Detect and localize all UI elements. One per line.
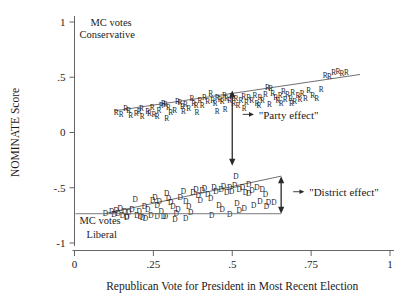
top-left-note-line-1: MC votes bbox=[91, 17, 132, 28]
y-tick-label: 0 bbox=[60, 126, 66, 138]
data-point-d: D bbox=[271, 198, 277, 207]
data-point-d: D bbox=[183, 214, 189, 223]
y-tick-label: .5 bbox=[57, 71, 66, 83]
y-axis-title: NOMINATE Score bbox=[9, 88, 21, 177]
axis-labels-group: NOMINATE ScoreRepublican Vote for Presid… bbox=[9, 17, 359, 293]
data-point-d: D bbox=[197, 196, 203, 205]
data-point-r: R bbox=[223, 105, 228, 114]
bottom-left-note-line-1: MC votes bbox=[80, 215, 121, 226]
data-point-d: D bbox=[156, 197, 162, 206]
bottom-left-note-line-2: Liberal bbox=[87, 229, 117, 240]
data-point-r: R bbox=[279, 99, 284, 108]
data-point-d: D bbox=[227, 210, 233, 219]
data-point-r: R bbox=[164, 114, 169, 123]
data-point-d: D bbox=[233, 172, 239, 181]
x-axis-title: Republican Vote for President in Most Re… bbox=[106, 280, 358, 293]
x-tick-label: 1 bbox=[387, 258, 393, 270]
nominate-score-scatter-figure: 1.50-.5-10.25.5.751 RRRRRRRRRRRRRRRRRRRR… bbox=[0, 0, 418, 305]
y-tick-label: -.5 bbox=[54, 182, 66, 194]
y-tick-label: -1 bbox=[56, 237, 65, 249]
data-point-d: D bbox=[209, 211, 215, 220]
data-point-r: R bbox=[137, 107, 142, 116]
data-point-r: R bbox=[319, 85, 324, 94]
data-point-r: R bbox=[181, 107, 186, 116]
data-point-d: D bbox=[132, 195, 138, 204]
plot-canvas: 1.50-.5-10.25.5.751 RRRRRRRRRRRRRRRRRRRR… bbox=[0, 0, 418, 305]
data-point-d: D bbox=[242, 204, 248, 213]
data-point-r: R bbox=[200, 101, 205, 110]
x-tick-label: 0 bbox=[72, 258, 78, 270]
data-point-r: R bbox=[344, 68, 349, 77]
data-point-r: R bbox=[155, 112, 160, 121]
annotation-label-1: "Party effect" bbox=[259, 109, 319, 121]
data-point-r: R bbox=[126, 106, 131, 115]
data-point-d: D bbox=[148, 211, 154, 220]
data-point-d: D bbox=[175, 205, 181, 214]
annotation-arrowhead-top-2 bbox=[278, 176, 284, 183]
data-point-r: R bbox=[289, 99, 294, 108]
x-tick-label: .75 bbox=[304, 258, 318, 270]
data-series-group: RRRRRRRRRRRRRRRRRRRRRRRRRRRRRRRRRRRRRRRR… bbox=[103, 67, 360, 224]
data-point-d: D bbox=[264, 202, 270, 211]
annotation-label-2: "District effect" bbox=[309, 186, 379, 198]
x-tick-label: .5 bbox=[228, 258, 237, 270]
annotation-arrowhead-bottom-2 bbox=[278, 207, 284, 214]
data-point-r: R bbox=[215, 107, 220, 116]
y-tick-label: 1 bbox=[60, 16, 66, 28]
data-point-r: R bbox=[194, 108, 199, 117]
data-point-d: D bbox=[246, 189, 252, 198]
data-point-d: D bbox=[172, 215, 178, 224]
data-point-d: D bbox=[143, 214, 149, 223]
annotation-arrowhead-bottom-1 bbox=[229, 159, 235, 166]
data-point-r: R bbox=[314, 94, 319, 103]
data-point-r: R bbox=[159, 101, 164, 110]
data-point-d: D bbox=[188, 208, 194, 217]
data-point-d: D bbox=[181, 187, 187, 196]
data-point-r: R bbox=[172, 106, 177, 115]
top-left-note-line-2: Conservative bbox=[80, 29, 136, 40]
data-point-d: D bbox=[251, 201, 257, 210]
data-point-r: R bbox=[242, 104, 247, 113]
x-tick-label: .25 bbox=[147, 258, 161, 270]
data-point-d: D bbox=[219, 205, 225, 214]
data-point-r: R bbox=[147, 109, 152, 118]
